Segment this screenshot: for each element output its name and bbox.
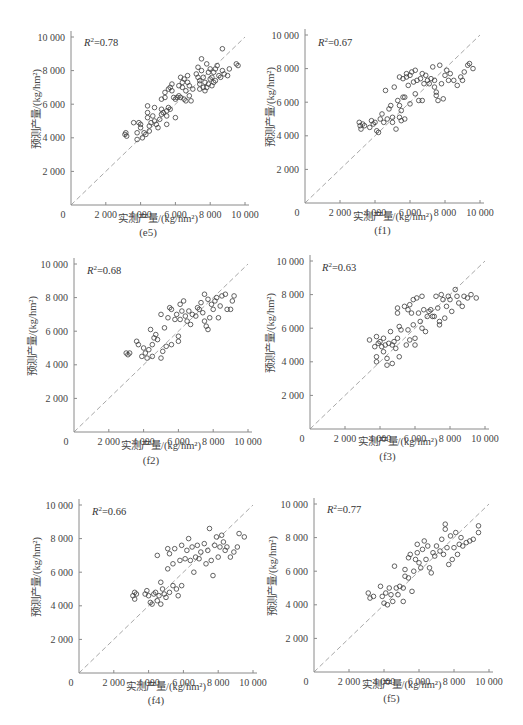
y-tick-label: 4 000	[51, 600, 74, 611]
y-axis-title: 预测产量/(kg/hm²)	[266, 536, 279, 616]
y-tick-label: 2 000	[282, 390, 305, 401]
x-tick-label: 2 000	[329, 207, 352, 218]
y-tick-label: 8 000	[46, 292, 69, 303]
origin-label: 0	[69, 677, 74, 688]
reference-line-1to1	[74, 264, 248, 432]
scatter-panel-f4: 02 0002 0004 0004 0006 0006 0008 0008 00…	[0, 480, 262, 725]
scatter-points	[367, 287, 478, 367]
scatter-panel-f3: 02 0002 0004 0004 0006 0006 0008 0008 00…	[262, 240, 523, 480]
scatter-plot: 02 0002 0004 0004 0006 0006 0008 0008 00…	[262, 240, 523, 480]
x-tick-label: 8 000	[199, 209, 222, 220]
y-tick-label: 10 000	[38, 32, 66, 43]
y-axis-title: 预测产量/(kg/hm²)	[264, 67, 277, 147]
x-tick-label: 2 000	[98, 436, 121, 447]
x-tick-label: 8 000	[207, 677, 230, 688]
scatter-points	[357, 61, 475, 134]
x-tick-label: 8 000	[443, 676, 466, 687]
panel-label: (f1)	[374, 224, 391, 237]
r-squared-annotation: R2=0.63	[321, 261, 356, 273]
scatter-plot: 02 0002 0004 0004 0006 0006 0008 0008 00…	[262, 0, 523, 240]
panel-label: (e5)	[139, 226, 157, 239]
panel-label: (f5)	[383, 692, 400, 705]
origin-label: 0	[295, 207, 300, 218]
reference-line-1to1	[305, 35, 480, 203]
x-tick-label: 8 000	[434, 207, 457, 218]
y-axis-title: 预测产量/(kg/hm²)	[264, 293, 277, 373]
x-tick-label: 10 000	[466, 207, 494, 218]
y-tick-label: 8 000	[286, 532, 309, 543]
scatter-panel-f5: 02 0002 0004 0004 0006 0006 0008 0008 00…	[262, 480, 523, 725]
y-tick-label: 4 000	[282, 356, 305, 367]
origin-label: 0	[61, 209, 66, 220]
scatter-plot: 02 0002 0004 0004 0006 0006 0008 0008 00…	[0, 0, 262, 240]
x-tick-label: 8 000	[439, 433, 462, 444]
x-tick-label: 8 000	[202, 436, 225, 447]
y-tick-label: 8 000	[51, 533, 74, 544]
y-axis-title: 预测产量/(kg/hm²)	[30, 69, 43, 149]
scatter-points	[123, 46, 241, 141]
r-squared-annotation: R2=0.66	[91, 505, 126, 517]
x-axis-title: 实测产量/(kg/hm²)	[121, 439, 201, 452]
scatter-points	[124, 292, 236, 360]
y-tick-label: 10 000	[41, 259, 69, 270]
r-squared-annotation: R2=0.78	[83, 36, 118, 48]
scatter-points	[131, 526, 247, 606]
scatter-panel-f1: 02 0002 0004 0004 0006 0006 0008 0008 00…	[262, 0, 523, 240]
y-tick-label: 10 000	[281, 499, 309, 510]
y-tick-label: 2 000	[286, 633, 309, 644]
y-tick-label: 8 000	[277, 63, 300, 74]
panel-label: (f3)	[379, 450, 396, 463]
y-tick-label: 4 000	[43, 132, 66, 143]
x-axis-title: 实测产量/(kg/hm²)	[118, 212, 198, 225]
scatter-panel-f2: 02 0002 0004 0004 0006 0006 0008 0008 00…	[0, 240, 262, 480]
y-tick-label: 6 000	[51, 567, 74, 578]
y-axis-title: 预测产量/(kg/hm²)	[30, 537, 43, 617]
x-tick-label: 2 000	[103, 677, 126, 688]
x-axis-title: 实测产量/(kg/hm²)	[358, 435, 438, 448]
y-tick-label: 6 000	[46, 326, 69, 337]
origin-label: 0	[304, 676, 309, 687]
y-tick-label: 4 000	[277, 130, 300, 141]
y-tick-label: 10 000	[46, 500, 74, 511]
scatter-plot: 02 0002 0004 0004 0006 0006 0008 0008 00…	[0, 240, 262, 480]
r-squared-annotation: R2=0.68	[86, 264, 121, 276]
r-squared-annotation: R2=0.77	[326, 503, 361, 515]
x-tick-label: 2 000	[334, 433, 357, 444]
y-tick-label: 10 000	[277, 256, 305, 267]
origin-label: 0	[300, 433, 305, 444]
origin-label: 0	[64, 436, 69, 447]
x-tick-label: 10 000	[471, 433, 499, 444]
y-tick-label: 8 000	[43, 65, 66, 76]
y-tick-label: 4 000	[46, 359, 69, 370]
x-axis-title: 实测产量/(kg/hm²)	[126, 680, 206, 693]
y-tick-label: 2 000	[46, 393, 69, 404]
x-tick-label: 10 000	[231, 209, 259, 220]
x-tick-label: 10 000	[475, 676, 503, 687]
y-tick-label: 6 000	[286, 566, 309, 577]
x-axis-title: 实测产量/(kg/hm²)	[362, 678, 442, 691]
y-tick-label: 6 000	[282, 323, 305, 334]
reference-line-1to1	[79, 505, 253, 673]
panel-label: (f2)	[143, 454, 160, 467]
x-tick-label: 2 000	[338, 676, 361, 687]
x-tick-label: 2 000	[95, 209, 118, 220]
scatter-plot: 02 0002 0004 0004 0006 0006 0008 0008 00…	[0, 480, 262, 725]
y-tick-label: 10 000	[272, 30, 300, 41]
reference-line-1to1	[310, 261, 485, 429]
y-tick-label: 4 000	[286, 599, 309, 610]
r-squared-annotation: R2=0.67	[317, 36, 352, 48]
panel-label: (f4)	[148, 694, 165, 707]
y-tick-label: 8 000	[282, 289, 305, 300]
x-tick-label: 10 000	[234, 436, 262, 447]
y-axis-title: 预测产量/(kg/hm²)	[26, 296, 39, 376]
y-tick-label: 6 000	[43, 99, 66, 110]
y-tick-label: 2 000	[43, 166, 66, 177]
x-axis-title: 实测产量/(kg/hm²)	[353, 210, 433, 223]
scatter-plot: 02 0002 0004 0004 0006 0006 0008 0008 00…	[262, 480, 523, 725]
scatter-panel-e5: 02 0002 0004 0004 0006 0006 0008 0008 00…	[0, 0, 262, 240]
y-tick-label: 6 000	[277, 97, 300, 108]
y-tick-label: 2 000	[277, 164, 300, 175]
scatter-points	[366, 522, 481, 607]
y-tick-label: 2 000	[51, 634, 74, 645]
